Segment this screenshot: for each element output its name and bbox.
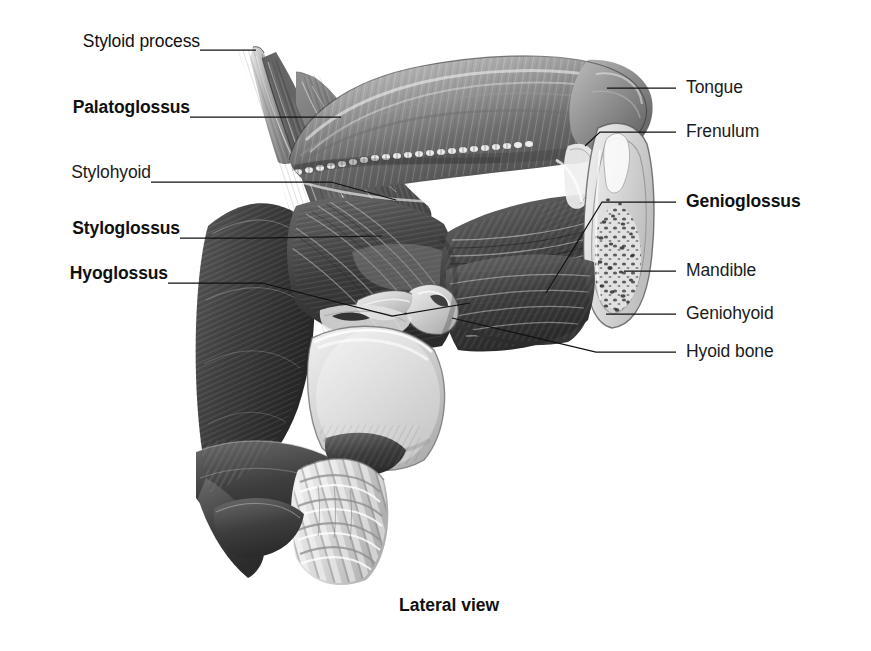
label-mandible: Mandible — [686, 262, 756, 280]
label-styloid-process: Styloid process — [46, 33, 200, 51]
label-hyoid-bone: Hyoid bone — [686, 343, 774, 361]
label-frenulum: Frenulum — [686, 123, 759, 141]
anatomical-figure: Styloid process Palatoglossus Stylohyoid… — [0, 0, 871, 651]
label-palatoglossus: Palatoglossus — [20, 99, 190, 117]
label-genioglossus: Genioglossus — [686, 193, 801, 211]
label-hyoglossus: Hyoglossus — [20, 265, 168, 283]
label-tongue: Tongue — [686, 79, 743, 97]
label-geniohyoid: Geniohyoid — [686, 305, 774, 323]
mandible-structure — [584, 123, 654, 328]
label-styloglossus: Styloglossus — [20, 220, 180, 238]
figure-caption: Lateral view — [399, 595, 499, 616]
label-stylohyoid: Stylohyoid — [20, 164, 151, 182]
